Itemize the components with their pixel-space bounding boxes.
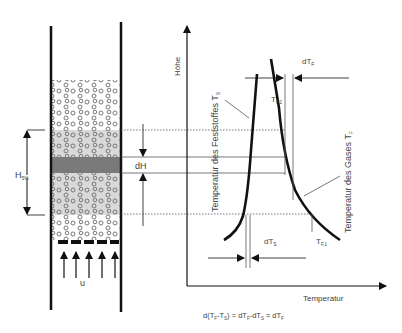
- gas-temperature-curve: [271, 59, 340, 240]
- bed-column: u: [51, 22, 121, 312]
- dts-label: dTS: [264, 237, 277, 247]
- flow-label: u: [80, 278, 85, 288]
- dh-label: dH: [135, 161, 147, 171]
- solid-leader-line: [225, 100, 249, 118]
- dtf-dimension: dTF: [245, 57, 349, 78]
- tf1-label: TF,1: [316, 237, 327, 247]
- flow-arrows: [64, 252, 115, 278]
- y-axis-label: Höhe: [173, 56, 182, 76]
- gas-curve-label: Temperatur des Gases TF: [343, 131, 354, 233]
- equation: d(TF-TS) = dTF-dTS ≈ dTF: [203, 311, 284, 321]
- particles: [52, 80, 120, 240]
- axes: Höhe Temperatur: [173, 26, 386, 303]
- solid-curve-label: Temperatur des Feststoffes TS: [210, 91, 221, 212]
- dtf-label: dTF: [302, 57, 314, 67]
- x-axis-label: Temperatur: [303, 294, 344, 303]
- distributor-plate: [58, 240, 119, 244]
- diagram-canvas: u H5% dH Höhe Temperatur: [0, 0, 402, 333]
- height-dimension: H5%: [15, 130, 45, 215]
- gas-leader-line: [304, 176, 340, 196]
- dh-dimension: dH: [135, 124, 147, 226]
- dts-dimension: dTS: [208, 237, 306, 258]
